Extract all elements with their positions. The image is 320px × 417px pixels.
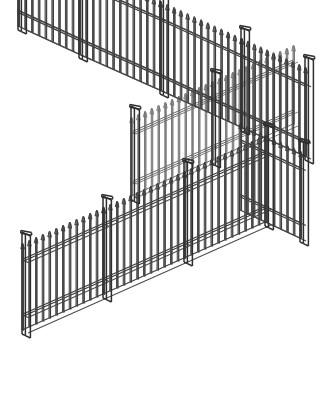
picket-tip-collar (252, 49, 256, 50)
picket-tip-collar (243, 150, 247, 151)
picket-tip-collar (279, 147, 283, 148)
picket-tip-collar (176, 180, 180, 181)
picket-tip-collar (199, 25, 203, 26)
picket-tip-collar (75, 225, 79, 226)
picket-tip-collar (150, 114, 154, 115)
picket-tip-collar (196, 171, 200, 172)
picket-tip-collar (61, 231, 65, 232)
picket-tip-collar (203, 168, 207, 169)
picket-tip-collar (233, 41, 237, 42)
picket-tip-collar (257, 144, 261, 145)
picket-tip-collar (88, 219, 92, 220)
picket-tip-collar (285, 54, 289, 55)
picket-tip-collar (48, 237, 52, 238)
picket-tip-collar (259, 52, 263, 53)
picket-tip-collar (177, 102, 181, 103)
picket-tip-collar (41, 240, 45, 241)
picket-tip-collar (285, 150, 289, 151)
picket-tip-collar (163, 108, 167, 109)
picket-tip-collar (226, 37, 230, 38)
picket-tip-collar (237, 153, 241, 154)
picket-tip-collar (145, 1, 149, 2)
picket-tip-collar (250, 147, 254, 148)
picket-tip-collar (142, 195, 146, 196)
picket-tip-collar (265, 55, 269, 56)
picket-tip-collar (54, 234, 58, 235)
picket-tip-collar (95, 216, 99, 217)
picket-tip-collar (297, 70, 301, 71)
picket-tip-collar (291, 67, 295, 68)
picket-tip-collar (278, 61, 282, 62)
picket-tip-collar (162, 186, 166, 187)
picket-tip-collar (252, 135, 256, 136)
picket-tip-collar (272, 58, 276, 59)
picket-tip-collar (223, 159, 227, 160)
picket-tip-collar (68, 228, 72, 229)
picket-tip-collar (170, 105, 174, 106)
picket-tip-collar (157, 111, 161, 112)
picket-tip-collar (169, 183, 173, 184)
picket-tip-collar (81, 222, 85, 223)
picket-tip-collar (156, 189, 160, 190)
picket-tip-collar (149, 192, 153, 193)
picket-tip-collar (122, 204, 126, 205)
picket-tip-collar (192, 22, 196, 23)
fence-diagram (0, 0, 320, 417)
picket-tip-collar (292, 153, 296, 154)
picket-tip-collar (152, 4, 156, 5)
picket-tip-collar (143, 117, 147, 118)
picket-tip-collar (284, 64, 288, 65)
picket-tip-collar (206, 28, 210, 29)
picket-tip-collar (34, 243, 38, 244)
picket-tip-collar (219, 34, 223, 35)
picket-tip-collar (115, 207, 119, 208)
picket-tip-collar (230, 156, 234, 157)
picket-tip-collar (213, 31, 217, 32)
picket-tip-collar (292, 51, 296, 52)
picket-tip-collar (172, 13, 176, 14)
picket-tip-collar (186, 19, 190, 20)
fence-rendering-canvas: Isometric palisade fence assembly Graysc… (0, 0, 320, 417)
picket-tip-collar (179, 16, 183, 17)
